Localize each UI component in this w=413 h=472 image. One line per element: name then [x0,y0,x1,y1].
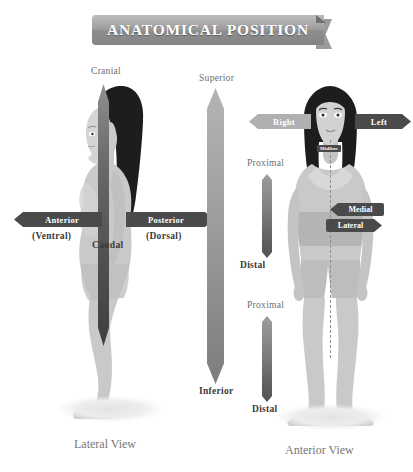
superior-inferior-arrow-shaft [207,88,224,384]
title-banner: ANATOMICAL POSITION [92,15,332,48]
lateral-badge: Lateral [326,219,382,232]
caudal-label: Caudal [92,240,123,250]
posterior-arrow-banner: Posterior [126,212,214,227]
lateral-body-svg [40,78,180,428]
leg-proximal-label: Proximal [247,300,284,310]
superior-inferior-arrow [207,88,224,384]
inferior-label: Inferior [199,386,234,396]
anterior-label: Anterior [45,215,79,225]
medial-badge: Medial [330,203,384,216]
left-arrow-banner: Left [355,114,411,129]
arm-distal-label: Distal [240,260,266,270]
arm-arrow-shaft [262,174,272,258]
dorsal-sublabel: (Dorsal) [146,231,182,241]
leg-distal-label: Distal [252,404,278,414]
anterior-figure-shadow [276,404,386,430]
arm-proximal-distal-arrow [262,174,272,258]
anterior-view-caption: Anterior View [285,443,354,458]
lateral-view-caption: Lateral View [74,437,136,452]
page-title: ANATOMICAL POSITION [92,15,324,45]
leg-arrow-shaft [262,316,272,402]
diagram-canvas: ANATOMICAL POSITION [0,0,413,472]
ventral-sublabel: (Ventral) [32,231,71,241]
anterior-arrow-banner: Anterior [14,212,102,227]
lateral-view-figure [40,78,180,428]
lateral-label: Lateral [338,221,363,230]
arm-proximal-label: Proximal [247,158,284,168]
midline-dashed-line [330,140,331,358]
left-label: Left [371,117,387,127]
anterior-view-figure [268,84,393,430]
right-arrow-banner: Right [249,114,311,129]
superior-label: Superior [199,73,234,83]
midline-tag: Midline [317,145,341,152]
right-label: Right [273,117,295,127]
posterior-label: Posterior [148,215,184,225]
lateral-figure-shadow [58,396,162,422]
leg-proximal-distal-arrow [262,316,272,402]
medial-label: Medial [349,205,373,214]
cranial-label: Cranial [91,66,121,76]
